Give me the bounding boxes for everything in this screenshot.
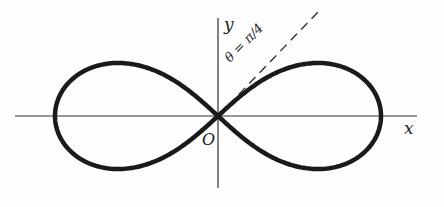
y-axis-label: y xyxy=(224,14,234,34)
lemniscate-diagram: x y O θ = π/4 xyxy=(0,0,444,207)
origin-label: O xyxy=(202,130,215,149)
x-axis-label: x xyxy=(404,118,414,138)
diagram-canvas xyxy=(0,0,444,207)
